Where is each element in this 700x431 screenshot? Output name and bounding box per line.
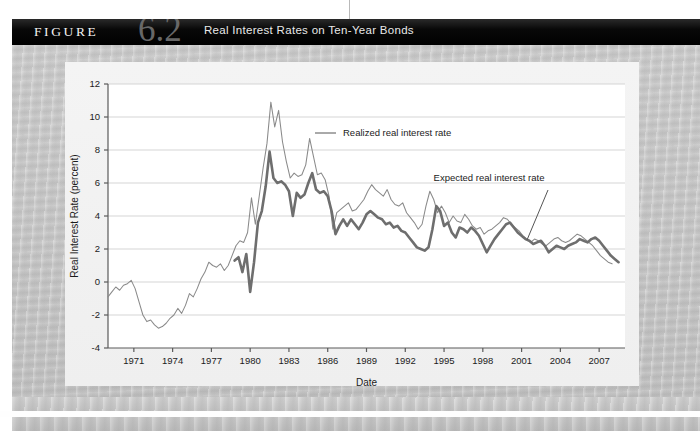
x-tick-label: 1989	[356, 355, 377, 366]
y-tick-label: 2	[95, 243, 100, 254]
figure-number: 6.2	[138, 19, 182, 45]
x-tick-label: 1980	[240, 355, 261, 366]
x-tick-label: 1986	[317, 355, 338, 366]
x-tick-label: 1998	[472, 355, 493, 366]
figure-title: Real Interest Rates on Ten-Year Bonds	[204, 24, 414, 36]
x-tick-label: 2007	[589, 355, 610, 366]
x-tick-label: 1983	[278, 355, 299, 366]
x-tick-label: 1971	[123, 355, 144, 366]
y-tick-label: 0	[95, 276, 100, 287]
x-tick-label: 1995	[433, 355, 454, 366]
x-tick-label: 1992	[395, 355, 416, 366]
footer-band-lower	[12, 417, 700, 431]
x-tick-label: 2001	[511, 355, 532, 366]
figure-label: FIGURE	[34, 24, 98, 40]
y-tick-label: -2	[92, 309, 100, 320]
y-tick-label: 8	[95, 144, 100, 155]
y-axis-title: Real Interest Rate (percent)	[69, 154, 80, 277]
footer-band-upper	[12, 397, 700, 411]
chart: -4-2024681012197119741977198019831986198…	[0, 0, 700, 431]
annotation-label: Realized real interest rate	[343, 127, 451, 138]
y-tick-label: 12	[89, 78, 100, 89]
y-tick-label: 6	[95, 177, 100, 188]
figure-page: FIGURE 6.2 Real Interest Rates on Ten-Ye…	[0, 0, 700, 431]
y-tick-label: 10	[89, 111, 100, 122]
annotation-label: Expected real interest rate	[434, 172, 545, 183]
x-tick-label: 1977	[201, 355, 222, 366]
x-tick-label: 1974	[162, 355, 183, 366]
y-tick-label: -4	[92, 342, 100, 353]
x-tick-label: 2004	[550, 355, 571, 366]
x-axis-title: Date	[356, 377, 378, 388]
y-tick-label: 4	[95, 210, 100, 221]
